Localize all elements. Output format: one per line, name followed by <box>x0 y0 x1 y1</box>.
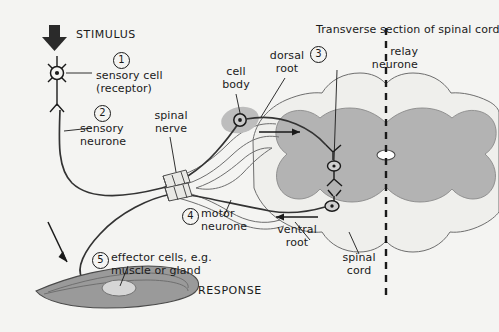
motor-neurone-cell-body <box>325 201 339 211</box>
step-marker-2: 2 <box>94 105 111 122</box>
step-label-relay-neurone: relay neurone <box>300 46 418 71</box>
label-cell-body: cell body <box>216 66 256 91</box>
step-marker-4: 4 <box>182 208 199 225</box>
step-label-sensory-cell: sensory cell (receptor) <box>96 70 163 95</box>
stimulus-arrow <box>42 25 67 51</box>
diagram-canvas <box>0 0 499 332</box>
reflex-arc-diagram: STIMULUS RESPONSE Transverse section of … <box>0 0 499 332</box>
spinal-nerve-sheath <box>163 170 192 201</box>
response-label: RESPONSE <box>198 285 262 298</box>
label-ventral-root: ventral root <box>272 224 322 249</box>
figure-title: Transverse section of spinal cord <box>316 24 499 37</box>
step-label-effector-cells: effector cells, e.g. muscle or gland <box>111 252 212 277</box>
step-label-sensory-neurone: sensory neurone <box>80 123 126 148</box>
label-spinal-cord: spinal cord <box>336 252 382 277</box>
sensory-cell-body <box>234 114 246 126</box>
step-marker-5: 5 <box>92 252 109 269</box>
leader-spinal-nerve <box>170 137 176 172</box>
step-label-motor-neurone: motor neurone <box>201 208 247 233</box>
step-marker-1: 1 <box>113 52 130 69</box>
label-dorsal-root: dorsal root <box>264 50 310 75</box>
stimulus-label: STIMULUS <box>76 29 136 42</box>
label-spinal-nerve: spinal nerve <box>148 110 194 135</box>
response-arrow <box>48 222 67 262</box>
sensory-receptor-cell <box>48 56 66 112</box>
